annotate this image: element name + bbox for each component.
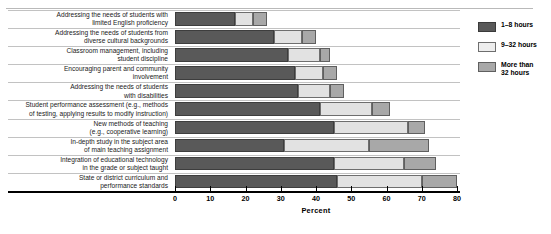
category-label: New methods of teaching (e.g., cooperati… bbox=[8, 119, 168, 136]
category-label: Integration of educational technology in… bbox=[8, 155, 168, 172]
stacked-bar bbox=[175, 102, 460, 116]
bar-segment-series-1 bbox=[175, 48, 288, 62]
axis-tick bbox=[316, 186, 317, 191]
stacked-bar bbox=[175, 12, 460, 26]
stacked-bar bbox=[175, 175, 460, 189]
stacked-bar bbox=[175, 48, 460, 62]
bar-segment-series-1 bbox=[175, 157, 334, 171]
header-divider bbox=[6, 8, 533, 9]
stacked-bar bbox=[175, 30, 460, 44]
stacked-bar-chart: Addressing the needs of students with li… bbox=[0, 0, 551, 234]
bar-segment-series-2 bbox=[298, 84, 330, 98]
axis-tick-label: 20 bbox=[242, 194, 250, 203]
legend-item: 1–8 hours bbox=[478, 21, 550, 35]
bar-segment-series-1 bbox=[175, 121, 334, 135]
bar-segment-series-2 bbox=[337, 175, 422, 189]
axis-tick-label: 50 bbox=[347, 194, 355, 203]
stacked-bar bbox=[175, 139, 460, 153]
category-label: Encouraging parent and community involve… bbox=[8, 65, 168, 82]
chart-row: Encouraging parent and community involve… bbox=[0, 64, 460, 82]
light-gray-swatch bbox=[478, 42, 496, 53]
bar-segment-series-1 bbox=[175, 12, 235, 26]
bar-segment-series-1 bbox=[175, 139, 284, 153]
axis-tick bbox=[210, 186, 211, 191]
axis-tick bbox=[246, 186, 247, 191]
dark-gray-swatch bbox=[478, 22, 496, 33]
axis-tick-label: 0 bbox=[173, 194, 177, 203]
medium-gray-swatch bbox=[478, 62, 496, 73]
chart-row: Addressing the needs of students from di… bbox=[0, 28, 460, 46]
bar-segment-series-3 bbox=[320, 48, 331, 62]
axis-tick bbox=[422, 186, 423, 191]
bar-segment-series-3 bbox=[253, 12, 267, 26]
bar-segment-series-3 bbox=[330, 84, 344, 98]
stacked-bar bbox=[175, 84, 460, 98]
legend-item: More than 32 hours bbox=[478, 61, 550, 78]
bar-segment-series-3 bbox=[372, 102, 390, 116]
chart-row: Classroom management, including student … bbox=[0, 46, 460, 64]
chart-row: Student performance assessment (e.g., me… bbox=[0, 100, 460, 118]
chart-row: Addressing the needs of students with di… bbox=[0, 82, 460, 100]
axis-tick bbox=[281, 186, 282, 191]
axis-tick-label: 30 bbox=[277, 194, 285, 203]
chart-row: New methods of teaching (e.g., cooperati… bbox=[0, 119, 460, 137]
legend-item: 9–32 hours bbox=[478, 41, 550, 55]
category-label: State or district curriculum and perform… bbox=[8, 173, 168, 190]
bar-rows: Addressing the needs of students with li… bbox=[0, 10, 460, 191]
axis-tick bbox=[175, 186, 176, 191]
axis-tick-label: 10 bbox=[206, 194, 214, 203]
bar-segment-series-3 bbox=[302, 30, 316, 44]
axis-tick-label: 80 bbox=[453, 194, 461, 203]
bar-segment-series-1 bbox=[175, 102, 320, 116]
axis-tick bbox=[387, 186, 388, 191]
stacked-bar bbox=[175, 121, 460, 135]
category-label: Student performance assessment (e.g., me… bbox=[8, 101, 168, 118]
bar-segment-series-1 bbox=[175, 30, 274, 44]
axis-tick bbox=[351, 186, 352, 191]
axis-tick-label: 60 bbox=[383, 194, 391, 203]
stacked-bar bbox=[175, 66, 460, 80]
bar-segment-series-1 bbox=[175, 66, 295, 80]
bar-segment-series-1 bbox=[175, 175, 337, 189]
category-label: In-depth study in the subject area of ma… bbox=[8, 137, 168, 154]
bar-segment-series-2 bbox=[288, 48, 320, 62]
legend-label: More than 32 hours bbox=[501, 61, 550, 78]
bar-segment-series-3 bbox=[404, 157, 436, 171]
axis-tick-label: 70 bbox=[418, 194, 426, 203]
bar-segment-series-3 bbox=[422, 175, 457, 189]
bar-segment-series-2 bbox=[284, 139, 369, 153]
bar-segment-series-2 bbox=[334, 157, 405, 171]
legend-label: 1–8 hours bbox=[501, 21, 550, 29]
bar-segment-series-2 bbox=[320, 102, 373, 116]
category-label: Addressing the needs of students from di… bbox=[8, 29, 168, 46]
x-axis: 01020304050607080 Percent bbox=[0, 191, 551, 231]
chart-legend: 1–8 hours9–32 hoursMore than 32 hours bbox=[478, 21, 550, 84]
bar-segment-series-2 bbox=[295, 66, 323, 80]
category-label: Addressing the needs of students with di… bbox=[8, 83, 168, 100]
bar-segment-series-2 bbox=[235, 12, 253, 26]
plot-area: Addressing the needs of students with li… bbox=[0, 10, 551, 195]
bar-segment-series-3 bbox=[369, 139, 429, 153]
axis-tick bbox=[457, 186, 458, 191]
legend-label: 9–32 hours bbox=[501, 41, 550, 49]
bar-segment-series-1 bbox=[175, 84, 298, 98]
bar-segment-series-3 bbox=[323, 66, 337, 80]
chart-row: Addressing the needs of students with li… bbox=[0, 10, 460, 28]
category-label: Addressing the needs of students with li… bbox=[8, 11, 168, 28]
chart-row: In-depth study in the subject area of ma… bbox=[0, 137, 460, 155]
category-label: Classroom management, including student … bbox=[8, 47, 168, 64]
bar-segment-series-2 bbox=[274, 30, 302, 44]
x-axis-title: Percent bbox=[175, 206, 457, 215]
x-axis-line bbox=[8, 191, 460, 193]
axis-tick-label: 40 bbox=[312, 194, 320, 203]
chart-row: Integration of educational technology in… bbox=[0, 155, 460, 173]
bar-segment-series-3 bbox=[408, 121, 426, 135]
bar-segment-series-2 bbox=[334, 121, 408, 135]
stacked-bar bbox=[175, 157, 460, 171]
chart-row: State or district curriculum and perform… bbox=[0, 173, 460, 191]
